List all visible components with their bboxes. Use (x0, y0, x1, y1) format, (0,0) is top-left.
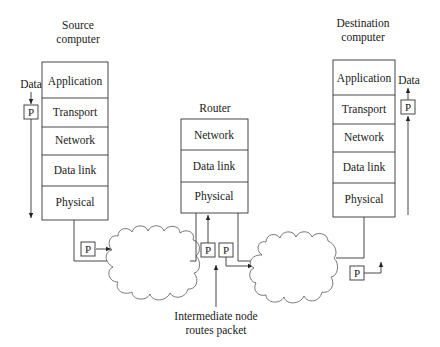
net2-packet-arrow (364, 262, 381, 273)
source-layer-physical: Physical (56, 196, 95, 209)
router-in-packet-label: P (205, 244, 211, 256)
router-layer-physical: Physical (195, 190, 234, 203)
destination-protocol-stack: Application Transport Network Data link … (333, 60, 395, 217)
source-layer-transport: Transport (53, 106, 98, 119)
router-out-link (238, 213, 256, 261)
destination-title-line2: computer (341, 31, 385, 44)
source-title-line1: Source (62, 19, 94, 31)
source-title-line2: computer (56, 33, 100, 46)
router-protocol-stack: Network Data link Physical (181, 119, 248, 213)
net1-packet-label: P (85, 243, 91, 255)
destination-computer: Destination computer Application Transpo… (333, 17, 420, 217)
net2-packet-label: P (354, 267, 360, 279)
destination-title-line1: Destination (336, 17, 389, 29)
source-protocol-stack: Application Transport Network Data link … (42, 62, 108, 220)
network-routing-diagram: Source computer Application Transport Ne… (0, 0, 440, 347)
router-title: Router (199, 102, 230, 114)
destination-layer-network: Network (344, 131, 384, 143)
dest-link-line (336, 217, 364, 258)
destination-layer-data-link: Data link (343, 161, 386, 173)
destination-data-label: Data (398, 74, 420, 86)
annotation-line1: Intermediate node (174, 310, 257, 322)
source-layer-data-link: Data link (54, 164, 97, 176)
source-layer-network: Network (55, 134, 95, 146)
source-computer: Source computer Application Transport Ne… (20, 19, 108, 220)
source-packet-label: P (28, 106, 34, 118)
annotation-line2: routes packet (186, 324, 248, 337)
destination-layer-transport: Transport (342, 103, 387, 116)
router-layer-network: Network (194, 129, 234, 141)
destination-layer-application: Application (337, 72, 392, 85)
router: Router Network Data link Physical (181, 102, 248, 213)
router-out-packet-label: P (223, 244, 229, 256)
destination-layer-physical: Physical (345, 193, 384, 206)
network-cloud-1 (106, 226, 200, 300)
router-out-arrow (226, 257, 253, 266)
network-cloud-2 (250, 232, 338, 303)
destination-packet-label: P (405, 101, 411, 113)
source-data-label: Data (20, 78, 42, 90)
source-layer-application: Application (48, 75, 103, 88)
router-layer-data-link: Data link (193, 160, 236, 172)
